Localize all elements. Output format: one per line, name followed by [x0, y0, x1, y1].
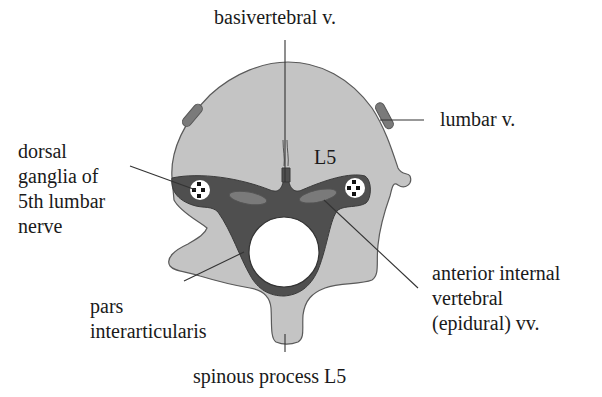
- label-lumbar: lumbar v.: [440, 108, 515, 130]
- label-anterior-internal-1: anterior internal: [432, 262, 561, 284]
- label-pars-1: pars: [90, 295, 124, 318]
- dorsal-ganglion-right: [345, 178, 365, 198]
- l5-vertebra-diagram: L5 basivertebral v. lumbar v. dorsal gan…: [0, 0, 602, 397]
- label-vertebra: L5: [314, 146, 336, 168]
- label-anterior-internal-3: (epidural) vv.: [432, 312, 540, 335]
- basivertebral-vein: [282, 168, 290, 182]
- label-dorsal-ganglia-4: nerve: [18, 215, 63, 237]
- dorsal-ganglion-left: [190, 180, 210, 200]
- label-dorsal-ganglia-2: ganglia of: [18, 165, 99, 188]
- label-dorsal-ganglia-3: 5th lumbar: [18, 190, 106, 212]
- label-dorsal-ganglia-1: dorsal: [18, 140, 67, 162]
- label-pars-2: interarticularis: [90, 320, 207, 342]
- label-anterior-internal-2: vertebral: [432, 287, 504, 309]
- label-spinous: spinous process L5: [193, 365, 346, 388]
- spinal-canal: [249, 217, 319, 287]
- label-basivertebral: basivertebral v.: [214, 6, 336, 28]
